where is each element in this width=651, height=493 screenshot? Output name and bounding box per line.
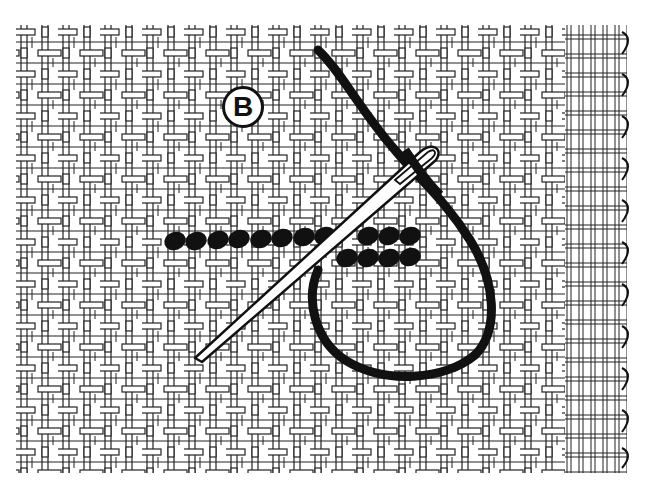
- figure-label-badge: B: [222, 86, 264, 128]
- woven-canvas-illustration: [0, 0, 651, 493]
- diagram-canvas: B: [0, 0, 651, 493]
- canvas-mesh: [16, 25, 568, 473]
- figure-label: B: [233, 93, 253, 121]
- canvas-selvage: [565, 25, 627, 473]
